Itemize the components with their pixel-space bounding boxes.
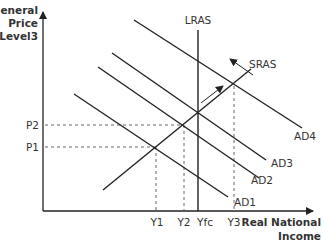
y3-label: Y3: [226, 216, 240, 228]
ad1-curve: [74, 94, 228, 197]
ad3-label: AD3: [271, 157, 293, 169]
ad1-label: AD1: [234, 196, 256, 208]
p1-label: P1: [26, 141, 39, 153]
y-axis-label-line3: Level3: [0, 30, 38, 42]
x-axis-label-line1: Real National: [242, 216, 321, 228]
ad-as-diagram: General Price Level3 Real National Incom…: [0, 0, 323, 243]
y-axis-label-line2: Price: [8, 17, 38, 29]
ad4-label: AD4: [294, 130, 316, 142]
ad2-label: AD2: [251, 174, 273, 186]
lras-label: LRAS: [185, 14, 212, 26]
y1-label: Y1: [149, 216, 163, 228]
ad4-curve: [134, 20, 302, 128]
x-axis-label-line2: Income: [278, 230, 321, 242]
p2-label: P2: [26, 119, 39, 131]
y2-label: Y2: [176, 216, 190, 228]
sras-curve: [103, 69, 251, 190]
guide-lines: [45, 86, 234, 211]
sras-label: SRAS: [249, 58, 277, 70]
y-axis-label-line1: General: [0, 4, 38, 16]
yfc-label: Yfc: [196, 216, 213, 228]
ad3-curve: [112, 53, 266, 160]
ad2-curve: [98, 67, 259, 178]
